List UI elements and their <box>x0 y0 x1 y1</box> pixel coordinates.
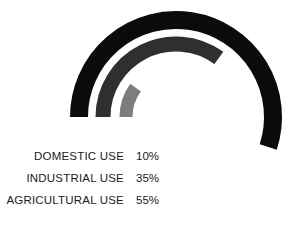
legend-row-domestic[interactable]: DOMESTIC USE 10% <box>0 150 176 172</box>
legend-label-domestic: DOMESTIC USE <box>34 150 124 162</box>
legend-row-industrial[interactable]: INDUSTRIAL USE 35% <box>0 172 176 194</box>
radial-bar-chart: DOMESTIC USE 10% INDUSTRIAL USE 35% AGRI… <box>0 0 290 229</box>
legend-value-industrial: 35% <box>136 172 170 184</box>
legend-value-agricultural: 55% <box>136 194 170 206</box>
arc-group <box>79 20 273 147</box>
arc-domestic-use[interactable] <box>126 88 136 117</box>
legend-row-agricultural[interactable]: AGRICULTURAL USE 55% <box>0 194 176 216</box>
legend-label-industrial: INDUSTRIAL USE <box>26 172 124 184</box>
chart-legend: DOMESTIC USE 10% INDUSTRIAL USE 35% AGRI… <box>0 150 176 216</box>
arc-industrial-use[interactable] <box>103 44 219 117</box>
legend-value-domestic: 10% <box>136 150 170 162</box>
legend-label-agricultural: AGRICULTURAL USE <box>6 194 124 206</box>
